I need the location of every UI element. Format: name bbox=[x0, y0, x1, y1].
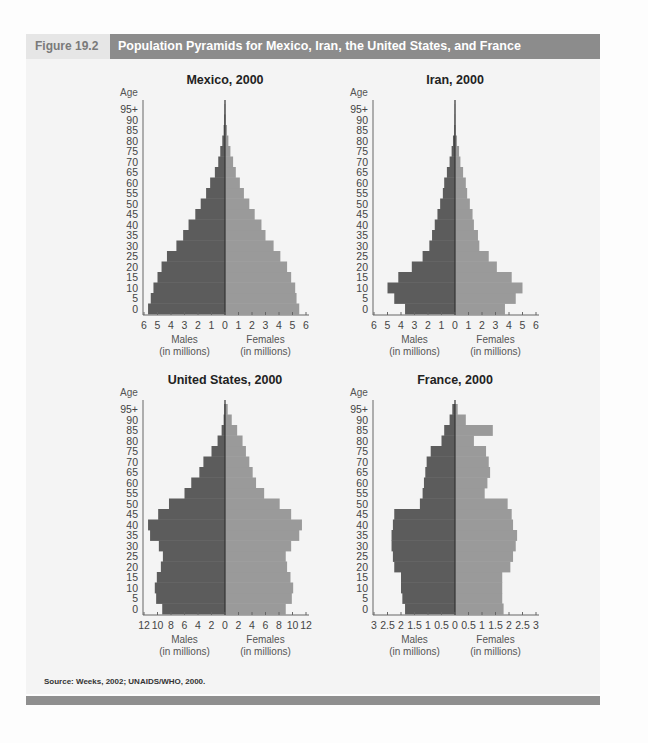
bar-female bbox=[455, 167, 463, 178]
x-tick: 1 bbox=[425, 619, 431, 631]
age-tick: 60 bbox=[356, 177, 368, 189]
bar-male bbox=[215, 167, 225, 178]
bar-female bbox=[225, 457, 249, 468]
bar-male bbox=[447, 167, 455, 178]
bar-female bbox=[455, 457, 489, 468]
bar-male bbox=[427, 457, 455, 468]
age-tick: 70 bbox=[356, 456, 368, 468]
bar-female bbox=[225, 478, 256, 489]
figure-number: Figure 19.2 bbox=[26, 34, 110, 59]
bar-male bbox=[424, 478, 455, 489]
bar-female bbox=[225, 178, 240, 189]
bar-male bbox=[162, 262, 225, 273]
bar-male bbox=[185, 488, 226, 499]
x-tick: 1 bbox=[236, 319, 242, 331]
males-label: Males bbox=[171, 334, 198, 345]
x-tick: 3 bbox=[263, 319, 269, 331]
svg-text:(in millions): (in millions) bbox=[470, 346, 521, 357]
males-label: Males bbox=[401, 334, 428, 345]
x-tick: 0.5 bbox=[434, 619, 449, 631]
x-tick: 2 bbox=[209, 619, 215, 631]
age-tick: 35 bbox=[126, 529, 138, 541]
bar-female bbox=[455, 593, 502, 604]
age-tick: 45 bbox=[126, 208, 138, 220]
bar-female bbox=[225, 572, 290, 583]
x-tick: 4 bbox=[276, 319, 282, 331]
age-axis-label: Age bbox=[350, 87, 368, 98]
x-tick: 2.5 bbox=[515, 619, 530, 631]
bar-male bbox=[432, 230, 455, 241]
age-tick: 25 bbox=[126, 550, 138, 562]
age-tick: 40 bbox=[126, 219, 138, 231]
age-tick: 85 bbox=[126, 424, 138, 436]
age-tick: 45 bbox=[356, 508, 368, 520]
bar-male bbox=[156, 593, 225, 604]
age-tick: 60 bbox=[356, 477, 368, 489]
bar-male bbox=[158, 272, 226, 283]
bar-female bbox=[455, 499, 508, 510]
x-tick: 2 bbox=[425, 319, 431, 331]
age-tick: 40 bbox=[126, 519, 138, 531]
bar-male bbox=[442, 436, 456, 447]
bar-male bbox=[195, 209, 225, 220]
bar-female bbox=[455, 530, 517, 541]
age-tick: 40 bbox=[356, 219, 368, 231]
age-tick: 60 bbox=[126, 477, 138, 489]
age-tick: 70 bbox=[356, 156, 368, 168]
x-tick: 0 bbox=[452, 619, 458, 631]
age-tick: 0 bbox=[362, 303, 368, 315]
x-tick: 6 bbox=[182, 619, 188, 631]
bar-male bbox=[429, 241, 455, 252]
age-tick: 5 bbox=[362, 292, 368, 304]
x-tick: 5 bbox=[520, 319, 526, 331]
x-tick: 1.5 bbox=[488, 619, 503, 631]
x-tick: 12 bbox=[138, 619, 150, 631]
females-label: Females bbox=[476, 334, 514, 345]
bar-female bbox=[225, 209, 255, 220]
age-tick: 95+ bbox=[350, 103, 368, 115]
x-tick: 0.5 bbox=[461, 619, 476, 631]
bar-male bbox=[393, 551, 455, 562]
pyramid-united-states: United States, 2000Age051015202530354045… bbox=[100, 370, 320, 670]
x-tick: 4 bbox=[168, 319, 174, 331]
bar-female bbox=[455, 293, 516, 304]
x-tick: 0 bbox=[452, 319, 458, 331]
x-tick: 2 bbox=[479, 319, 485, 331]
bar-male bbox=[401, 583, 455, 594]
chart-title: Mexico, 2000 bbox=[186, 73, 263, 87]
males-label: Males bbox=[401, 634, 428, 645]
age-tick: 45 bbox=[356, 208, 368, 220]
bar-female bbox=[455, 178, 466, 189]
bar-male bbox=[151, 293, 225, 304]
svg-text:(in millions): (in millions) bbox=[159, 346, 210, 357]
age-tick: 80 bbox=[356, 435, 368, 447]
age-tick: 90 bbox=[356, 114, 368, 126]
x-tick: 3 bbox=[182, 319, 188, 331]
age-tick: 35 bbox=[356, 529, 368, 541]
bar-female bbox=[455, 272, 512, 283]
bar-male bbox=[392, 541, 455, 552]
bar-female bbox=[225, 530, 299, 541]
bar-female bbox=[455, 446, 486, 457]
x-tick: 1 bbox=[439, 319, 445, 331]
age-tick: 90 bbox=[126, 114, 138, 126]
age-tick: 75 bbox=[126, 445, 138, 457]
age-tick: 95+ bbox=[120, 103, 138, 115]
bar-female bbox=[455, 425, 493, 436]
svg-text:(in millions): (in millions) bbox=[470, 646, 521, 657]
bar-female bbox=[455, 146, 459, 157]
age-tick: 80 bbox=[126, 435, 138, 447]
bar-male bbox=[444, 425, 455, 436]
age-tick: 95+ bbox=[350, 403, 368, 415]
bar-female bbox=[455, 220, 474, 231]
bar-female bbox=[225, 251, 280, 262]
bar-female bbox=[225, 509, 291, 520]
age-tick: 85 bbox=[126, 124, 138, 136]
age-tick: 90 bbox=[126, 414, 138, 426]
bar-female bbox=[455, 241, 479, 252]
age-tick: 50 bbox=[126, 198, 138, 210]
age-tick: 55 bbox=[356, 487, 368, 499]
age-tick: 5 bbox=[362, 592, 368, 604]
age-tick: 40 bbox=[356, 519, 368, 531]
bar-female bbox=[225, 188, 244, 199]
